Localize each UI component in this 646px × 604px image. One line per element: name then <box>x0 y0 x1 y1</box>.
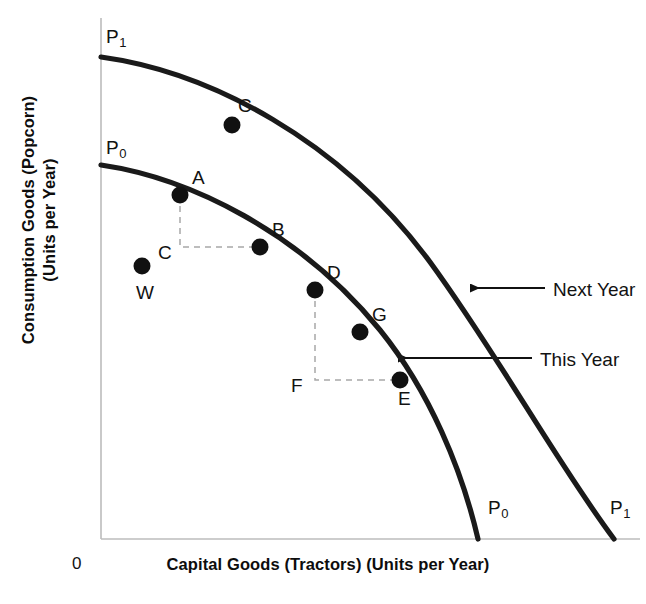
guide-corner-label-C: C <box>158 243 172 262</box>
plot-canvas <box>0 0 646 604</box>
data-point-C <box>224 117 241 134</box>
data-point-B <box>252 239 269 256</box>
curve-end-label-p1-top: P1 <box>106 27 126 46</box>
data-point-W <box>134 258 151 275</box>
callout-label-next-year: Next Year <box>553 280 635 299</box>
data-points <box>134 117 409 389</box>
guide-lines <box>180 195 400 380</box>
y-axis-title: Consumption Goods (Popcorn) (Units per Y… <box>20 20 57 420</box>
data-point-D <box>307 282 324 299</box>
point-label-G: G <box>372 305 387 324</box>
guide-corner-label-F: F <box>291 376 303 395</box>
origin-label: 0 <box>72 555 81 572</box>
point-label-A: A <box>192 168 205 187</box>
ppf-curve-p1 <box>101 57 614 539</box>
point-label-W: W <box>136 283 154 302</box>
point-label-E: E <box>398 389 411 408</box>
curve-end-label-p1-bottom: P1 <box>610 498 630 517</box>
curve-end-label-p0-top: P0 <box>106 138 126 157</box>
ppf-curves <box>101 57 614 539</box>
point-label-C: C <box>238 96 252 115</box>
data-point-E <box>392 372 409 389</box>
point-label-D: D <box>327 263 341 282</box>
x-axis-title: Capital Goods (Tractors) (Units per Year… <box>118 556 538 573</box>
y-axis-title-line2: (Units per Year) <box>41 20 58 420</box>
ppf-chart-figure: ABDGECWCF P0P1P0P1 Next YearThis Year Co… <box>0 0 646 604</box>
data-point-A <box>172 187 189 204</box>
point-label-B: B <box>272 220 285 239</box>
y-axis-title-line1: Consumption Goods (Popcorn) <box>19 96 37 344</box>
curve-end-label-p0-bottom: P0 <box>488 498 508 517</box>
ppf-curve-p0 <box>101 165 478 539</box>
data-point-G <box>352 324 369 341</box>
callout-label-this-year: This Year <box>540 350 619 369</box>
